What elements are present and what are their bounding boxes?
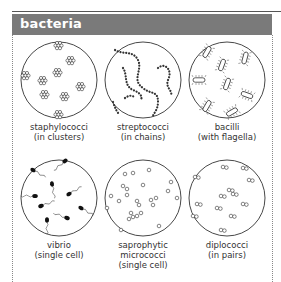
bacilli-panel: bacilli(with flagella)	[183, 40, 271, 142]
streptococci-panel: streptococci(in chains)	[99, 40, 187, 142]
bacilli-label: bacilli(with flagella)	[183, 122, 271, 142]
vibrio-label: vibrio(single cell)	[15, 240, 103, 260]
top-rule	[12, 11, 281, 12]
micrococci-label: saprophyticmicrococci(single cell)	[99, 240, 187, 270]
saprophytic-micrococci-panel: saprophyticmicrococci(single cell)	[99, 158, 187, 270]
diplococci-panel: diplococci(in pairs)	[183, 158, 271, 260]
staphylococci-panel: staphylococci(in clusters)	[15, 40, 103, 142]
diplococci-illustration-icon	[187, 158, 267, 238]
right-dotted-border	[272, 35, 273, 282]
section-title: bacteria	[20, 16, 82, 31]
streptococci-illustration-icon	[103, 40, 183, 120]
streptococci-label: streptococci(in chains)	[99, 122, 187, 142]
vibrio-panel: vibrio(single cell)	[15, 158, 103, 260]
micrococci-illustration-icon	[103, 158, 183, 238]
staphylococci-illustration-icon	[19, 40, 99, 120]
diplococci-label: diplococci(in pairs)	[183, 240, 271, 260]
vibrio-illustration-icon	[19, 158, 99, 238]
staphylococci-label: staphylococci(in clusters)	[15, 122, 103, 142]
section-header: bacteria	[12, 14, 272, 35]
left-dotted-border	[12, 35, 13, 282]
bacilli-illustration-icon	[187, 40, 267, 120]
